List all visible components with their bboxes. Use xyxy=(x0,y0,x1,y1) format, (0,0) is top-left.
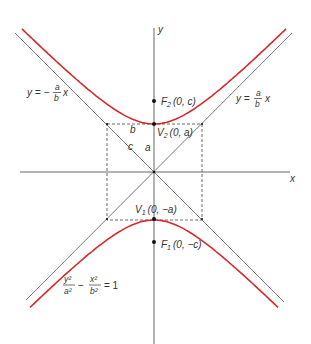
svg-text:−: − xyxy=(78,280,84,291)
vertex-v2-label: V2(0, a) xyxy=(157,127,193,139)
svg-text:a²: a² xyxy=(64,286,73,296)
box-corner-point xyxy=(201,123,203,125)
vertex-v1-label: V1(0, −a) xyxy=(135,204,177,216)
svg-text:b: b xyxy=(255,99,260,109)
svg-text:b²: b² xyxy=(90,286,99,296)
x-axis-label: x xyxy=(289,173,296,184)
svg-text:x: x xyxy=(264,93,271,104)
segment-c-label: c xyxy=(128,141,133,152)
asymptote-positive-slope xyxy=(26,33,292,300)
right-asymptote-equation: y = a b x xyxy=(235,88,271,109)
svg-text:= 1: = 1 xyxy=(104,280,119,291)
segment-a-label: a xyxy=(145,142,151,153)
svg-text:y²: y² xyxy=(63,274,72,284)
svg-text:x²: x² xyxy=(89,274,98,284)
center-point xyxy=(153,171,156,174)
hyperbola-diagram: y x F2(0, c) V2(0, a) V1(0, −a) F1(0, −c… xyxy=(0,0,311,344)
svg-text:b: b xyxy=(54,93,59,103)
hyperbola-equation: y² a² − x² b² = 1 xyxy=(63,274,119,296)
vertex-v2-point xyxy=(152,122,156,126)
y-axis-label: y xyxy=(157,24,164,35)
segment-b-label: b xyxy=(130,124,136,135)
focus-f2-label: F2(0, c) xyxy=(161,96,196,108)
svg-text:a: a xyxy=(55,82,60,92)
asymptote-negative-slope xyxy=(15,33,284,302)
vertex-v1-point xyxy=(152,217,156,221)
svg-text:x: x xyxy=(62,87,69,98)
box-corner-point xyxy=(106,218,108,220)
svg-text:a: a xyxy=(256,88,261,98)
focus-f2-point xyxy=(152,99,156,103)
svg-text:y = −: y = − xyxy=(26,87,49,98)
box-corner-point xyxy=(106,123,108,125)
focus-f1-label: F1(0, −c) xyxy=(161,239,202,251)
left-asymptote-equation: y = − a b x xyxy=(26,82,69,103)
box-corner-point xyxy=(201,218,203,220)
focus-f1-point xyxy=(152,240,156,244)
svg-text:y =: y = xyxy=(235,93,250,104)
